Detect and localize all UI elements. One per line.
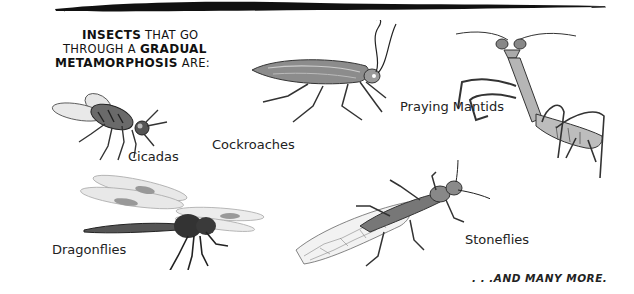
- label-cicadas: Cicadas: [128, 149, 179, 164]
- intro-bold-metamorphosis: metamorphosis: [55, 56, 178, 70]
- label-praying-mantids: Praying Mantids: [400, 99, 504, 114]
- outro-text: . . .and many more.: [472, 272, 607, 284]
- brush-stroke-divider: [0, 0, 634, 14]
- label-cockroaches: Cockroaches: [212, 137, 295, 152]
- intro-heading: Insects that go through a gradual metamo…: [50, 28, 250, 70]
- cockroach-illustration: [248, 20, 408, 135]
- label-stoneflies: Stoneflies: [465, 232, 529, 247]
- intro-bold-insects: Insects: [82, 28, 141, 42]
- stonefly-illustration: [290, 160, 490, 280]
- intro-bold-gradual: gradual: [140, 42, 207, 56]
- label-dragonflies: Dragonflies: [52, 242, 126, 257]
